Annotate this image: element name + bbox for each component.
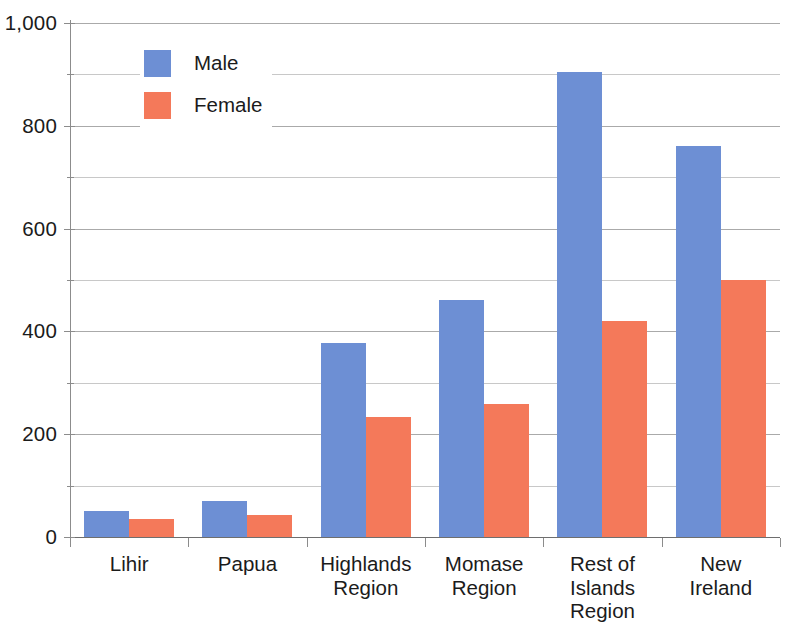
category-label-highlands-region: HighlandsRegion: [307, 552, 425, 599]
category-label-lihir: Lihir: [70, 552, 188, 576]
legend-swatch-female: [144, 92, 171, 119]
category-label-line: Momase: [425, 552, 543, 576]
category-label-line: Ireland: [662, 576, 780, 600]
value-axis-labels: 02004006008001,000: [0, 0, 785, 624]
legend-item-male: Male: [144, 42, 262, 84]
chart-legend: MaleFemale: [140, 38, 272, 132]
category-label-line: New: [662, 552, 780, 576]
legend-label-male: Male: [194, 51, 238, 75]
category-label-line: Rest of: [543, 552, 661, 576]
value-axis-label-200: 200: [0, 424, 57, 445]
category-label-line: Highlands: [307, 552, 425, 576]
category-label-line: Region: [425, 576, 543, 600]
value-axis-label-0: 0: [0, 527, 57, 548]
category-label-rest-of-islands-region: Rest ofIslandsRegion: [543, 552, 661, 623]
bar-chart: 02004006008001,000 LihirPapuaHighlandsRe…: [0, 0, 785, 624]
value-axis-label-600: 600: [0, 219, 57, 240]
legend-swatch-male: [144, 50, 171, 77]
legend-label-female: Female: [194, 93, 262, 117]
category-label-line: Lihir: [70, 552, 188, 576]
category-label-momase-region: MomaseRegion: [425, 552, 543, 599]
category-axis-labels: LihirPapuaHighlandsRegionMomaseRegionRes…: [70, 552, 780, 622]
category-label-line: Region: [543, 599, 661, 623]
value-axis-label-1000: 1,000: [0, 13, 57, 34]
category-label-new-ireland: NewIreland: [662, 552, 780, 599]
category-label-line: Islands: [543, 576, 661, 600]
value-axis-label-800: 800: [0, 116, 57, 137]
value-axis-label-400: 400: [0, 321, 57, 342]
category-label-papua: Papua: [188, 552, 306, 576]
category-label-line: Papua: [188, 552, 306, 576]
legend-item-female: Female: [144, 84, 262, 126]
category-label-line: Region: [307, 576, 425, 600]
